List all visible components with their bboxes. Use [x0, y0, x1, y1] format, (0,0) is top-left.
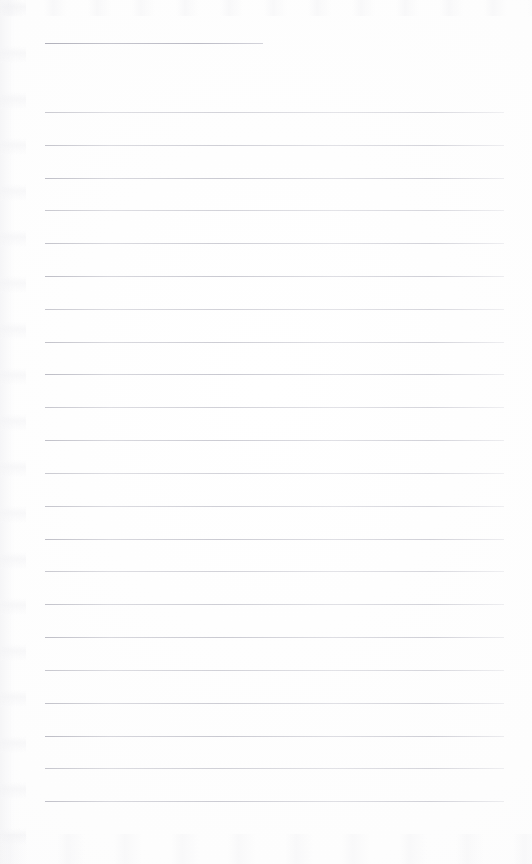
- ruled-line: [45, 506, 504, 507]
- ruled-line: [45, 768, 504, 769]
- ruled-line: [45, 342, 504, 343]
- scan-noise-bottom-edge: [0, 834, 532, 864]
- ruled-line: [45, 276, 504, 277]
- ruled-line: [45, 473, 504, 474]
- ruled-line: [45, 440, 504, 441]
- ruled-line: [45, 670, 504, 671]
- ruled-line: [45, 637, 504, 638]
- ruled-line: [45, 178, 504, 179]
- ruled-line: [45, 736, 504, 737]
- heading-rule: [45, 43, 263, 44]
- ruled-line: [45, 112, 504, 113]
- ruled-line: [45, 210, 504, 211]
- scan-noise-left-edge: [0, 0, 26, 864]
- ruled-line: [45, 539, 504, 540]
- paper-background: [0, 0, 532, 864]
- ruled-line: [45, 145, 504, 146]
- ruled-line: [45, 407, 504, 408]
- ruled-line: [45, 801, 504, 802]
- ruled-line: [45, 243, 504, 244]
- scan-noise-top-edge: [0, 0, 532, 16]
- ruled-line: [45, 604, 504, 605]
- ruled-line: [45, 374, 504, 375]
- ruled-line: [45, 309, 504, 310]
- ruled-line: [45, 571, 504, 572]
- scanned-page: [0, 0, 532, 864]
- ruled-line: [45, 703, 504, 704]
